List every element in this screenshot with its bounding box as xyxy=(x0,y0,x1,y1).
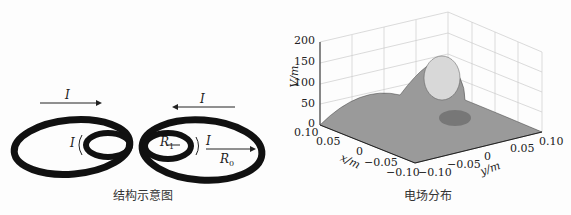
current-label: I xyxy=(65,88,70,102)
z-tick: 200 xyxy=(294,34,315,47)
x-tick: 0 xyxy=(356,145,363,158)
y-tick: 0.05 xyxy=(510,142,535,155)
x-tick: 0.10 xyxy=(294,126,319,139)
z-tick: 50 xyxy=(301,97,315,110)
current-label: I xyxy=(200,92,205,106)
current-label: I xyxy=(206,134,211,148)
current-label: I xyxy=(70,136,75,150)
coil-structure-illustration xyxy=(0,0,280,215)
field-distribution-panel: V/m 200 150 100 50 0 0.10 0.05 0 −0.05 −… xyxy=(280,0,571,215)
z-tick: 150 xyxy=(294,55,315,68)
x-tick: −0.10 xyxy=(386,166,420,179)
y-tick: −0.05 xyxy=(447,158,481,171)
surface-plot xyxy=(280,0,571,215)
radius-outer-label: R0 xyxy=(220,152,234,168)
field-caption: 电场分布 xyxy=(404,186,452,203)
z-tick: 100 xyxy=(294,76,315,89)
structure-diagram-panel: I I I I R1 R0 结构示意图 xyxy=(0,0,280,215)
y-tick: 0.10 xyxy=(539,135,564,148)
radius-inner-label: R1 xyxy=(160,135,174,151)
x-tick: 0.05 xyxy=(316,135,341,148)
structure-caption: 结构示意图 xyxy=(113,186,173,203)
